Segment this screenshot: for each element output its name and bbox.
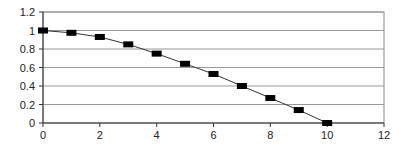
x-tick-label: 2 <box>97 129 103 141</box>
y-axis-ticks: 00.20.40.60.811.2 <box>20 6 43 129</box>
data-point-marker <box>209 71 219 77</box>
y-tick-label: 0.6 <box>20 62 35 74</box>
y-tick-label: 1 <box>29 25 35 37</box>
x-tick-label: 8 <box>267 129 273 141</box>
data-point-marker <box>95 34 105 40</box>
x-tick-label: 6 <box>210 129 216 141</box>
x-tick-label: 4 <box>154 129 160 141</box>
data-point-marker <box>294 107 304 113</box>
x-axis-ticks: 024681012 <box>40 123 390 141</box>
data-point-marker <box>265 95 275 101</box>
data-point-marker <box>123 41 133 47</box>
data-point-marker <box>180 61 190 67</box>
data-point-marker <box>322 120 332 126</box>
y-tick-label: 1.2 <box>20 6 35 18</box>
y-tick-label: 0.4 <box>20 80 35 92</box>
data-point-marker <box>237 83 247 89</box>
y-tick-label: 0.2 <box>20 99 35 111</box>
data-point-marker <box>38 28 48 34</box>
x-tick-label: 10 <box>321 129 333 141</box>
x-tick-label: 0 <box>40 129 46 141</box>
x-tick-label: 12 <box>378 129 390 141</box>
y-tick-label: 0 <box>29 117 35 129</box>
data-point-marker <box>66 30 76 36</box>
y-tick-label: 0.8 <box>20 43 35 55</box>
line-chart: 00.20.40.60.811.2 024681012 <box>0 0 409 147</box>
data-point-marker <box>152 51 162 57</box>
